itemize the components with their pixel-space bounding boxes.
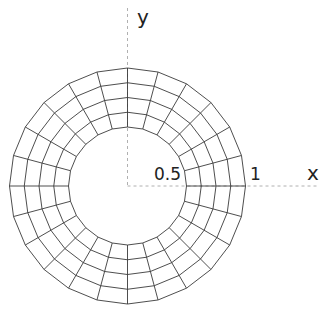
mesh-spoke [97,72,112,129]
mesh-spoke [14,201,71,216]
mesh-spoke [169,103,211,145]
mesh-diagram [0,0,328,318]
mesh-spoke [97,243,112,300]
mesh-spoke [44,103,86,145]
mesh-spoke [14,155,71,170]
tick-label-inner-radius: 0.5 [154,166,181,183]
x-axis-label: x [307,163,319,183]
mesh-spoke [143,72,158,129]
mesh-spoke [184,201,241,216]
mesh-spoke [184,155,241,170]
mesh-spoke [44,228,86,270]
tick-label-outer-radius: 1 [250,166,261,183]
mesh-spoke [143,243,158,300]
y-axis-label: y [137,7,149,27]
mesh-spoke [169,228,211,270]
